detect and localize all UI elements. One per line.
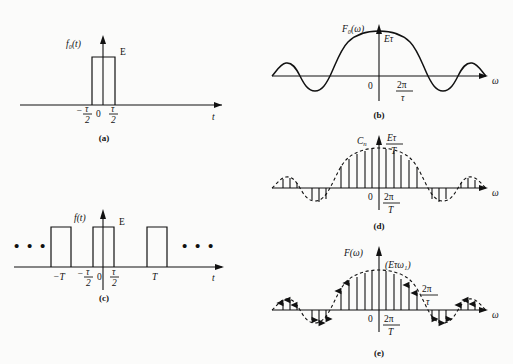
panel-a-tick-neg-tau-half: − τ 2: [76, 104, 92, 125]
panel-b-peak-label: Eτ: [383, 34, 394, 44]
panel-a-amplitude-label: E: [120, 47, 126, 57]
panel-c-tick-neg-tau-half: − τ 2: [77, 267, 93, 288]
svg-text:τ: τ: [401, 93, 405, 103]
panel-d: Cn Eτ T 0 2π T ω (d): [258, 126, 510, 234]
svg-text:τ: τ: [111, 104, 115, 114]
panel-d-caption: (d): [374, 221, 385, 231]
panel-a-x-axis-label: t: [212, 112, 215, 122]
panel-c-tick-pos-tau-half: τ 2: [110, 267, 119, 288]
panel-e-y-arrowhead: [376, 246, 382, 256]
svg-text:2π: 2π: [422, 284, 432, 294]
svg-text:τ: τ: [85, 104, 89, 114]
panel-b-tick-2pi-over-tau: 2π τ: [396, 80, 413, 103]
panel-c-function-label: f(t): [74, 213, 86, 224]
panel-c: • • • • • • f(t) E t −T − τ 2 0 τ 2 T (c…: [0, 185, 250, 305]
panel-c-amplitude-label: E: [119, 217, 125, 227]
panel-c-pulse-left: [51, 227, 71, 267]
panel-a: f₀(t) E t − τ 2 0 τ 2 (a): [0, 10, 250, 145]
panel-b: F₀(ω) Eτ 0 2π τ ω (b): [258, 6, 510, 124]
panel-a-function-label: f₀(t): [66, 39, 81, 50]
panel-d-y-arrowhead: [376, 135, 382, 145]
panel-d-function-label: Cn: [357, 136, 367, 147]
svg-text:T: T: [391, 146, 397, 156]
panel-e-tick-2pi-over-tau: 2π τ: [421, 284, 438, 307]
panel-c-pulse-right: [147, 227, 167, 267]
panel-c-tick-neg-T: −T: [53, 272, 65, 282]
panel-e: F(ω) (Eτω₁) 0 2π T 2π τ ω (e): [258, 234, 510, 362]
panel-a-caption: (a): [99, 133, 110, 143]
panel-e-tick-2pi-over-T: 2π T: [383, 314, 400, 337]
panel-a-y-arrowhead: [100, 35, 106, 44]
panel-c-ellipsis-left: • • •: [14, 238, 47, 254]
panel-b-function-label: F₀(ω): [341, 24, 364, 35]
panel-c-x-arrowhead: [215, 264, 224, 270]
svg-text:2: 2: [112, 278, 117, 288]
svg-text:2π: 2π: [397, 80, 407, 90]
panel-a-x-arrowhead: [214, 102, 222, 108]
panel-b-caption: (b): [374, 110, 385, 120]
panel-c-tick-T: T: [152, 272, 158, 282]
panel-d-x-axis-label: ω: [492, 188, 499, 198]
panel-b-x-axis-label: ω: [492, 76, 499, 86]
panel-a-tick-pos-tau-half: τ 2: [109, 104, 118, 125]
svg-text:τ: τ: [86, 267, 90, 277]
svg-text:T: T: [388, 205, 394, 215]
panel-e-x-axis-label: ω: [492, 310, 499, 320]
panel-c-tick-zero: 0: [97, 272, 102, 282]
svg-text:τ: τ: [112, 267, 116, 277]
panel-c-y-arrowhead: [100, 209, 106, 219]
panel-b-y-arrowhead: [376, 24, 382, 34]
svg-text:−: −: [77, 269, 83, 279]
panel-e-function-label: F(ω): [343, 248, 363, 259]
svg-text:2π: 2π: [384, 314, 394, 324]
svg-text:2: 2: [111, 115, 116, 125]
panel-d-tick-2pi-over-T: 2π T: [383, 192, 400, 215]
svg-text:T: T: [388, 327, 394, 337]
svg-text:2π: 2π: [384, 192, 394, 202]
panel-e-tick-zero: 0: [368, 314, 373, 324]
panel-c-x-axis-label: t: [212, 273, 215, 283]
panel-c-caption: (c): [99, 293, 109, 303]
svg-text:τ: τ: [426, 297, 430, 307]
svg-text:2: 2: [85, 115, 90, 125]
panel-c-ellipsis-right: • • •: [182, 238, 215, 254]
panel-b-tick-zero: 0: [368, 81, 373, 91]
panel-e-peak-label: (Eτω₁): [385, 260, 411, 271]
svg-text:Eτ: Eτ: [386, 133, 397, 143]
panel-e-caption: (e): [374, 348, 384, 358]
svg-text:2: 2: [86, 278, 91, 288]
panel-a-tick-zero: 0: [96, 109, 101, 119]
svg-text:−: −: [76, 106, 82, 116]
panel-d-tick-zero: 0: [368, 192, 373, 202]
